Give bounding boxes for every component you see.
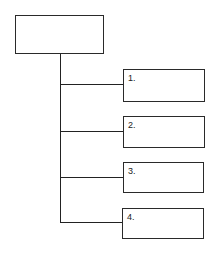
child-label-2: 2. — [128, 120, 136, 130]
branch-connector-2 — [60, 131, 123, 132]
branch-connector-3 — [60, 177, 123, 178]
child-box-3: 3. — [123, 162, 204, 193]
trunk-line — [60, 54, 61, 223]
child-box-1: 1. — [123, 69, 205, 102]
child-box-2: 2. — [123, 116, 205, 148]
branch-connector-4 — [60, 222, 123, 223]
child-label-3: 3. — [128, 166, 136, 176]
root-box — [15, 15, 104, 54]
child-label-1: 1. — [128, 73, 136, 83]
child-label-4: 4. — [127, 212, 135, 222]
child-box-4: 4. — [122, 208, 204, 239]
branch-connector-1 — [60, 84, 123, 85]
